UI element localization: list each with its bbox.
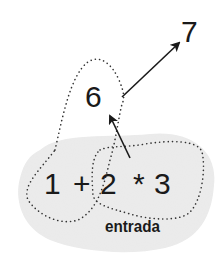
expression-token-plus: + bbox=[73, 167, 91, 200]
arrow-6-to-7 bbox=[122, 43, 179, 97]
diagram-canvas: 7 6 1 + 2 * 3 entrada bbox=[0, 0, 224, 258]
result-intermediate-value: 6 bbox=[85, 80, 102, 113]
result-final-value: 7 bbox=[181, 15, 198, 48]
expression-token-3: 3 bbox=[154, 167, 171, 200]
expression-evaluation-diagram: 7 6 1 + 2 * 3 entrada bbox=[0, 0, 224, 258]
expression-token-times: * bbox=[133, 167, 145, 200]
expression-token-2: 2 bbox=[100, 167, 117, 200]
expression-token-1: 1 bbox=[44, 167, 61, 200]
input-label: entrada bbox=[105, 218, 160, 235]
